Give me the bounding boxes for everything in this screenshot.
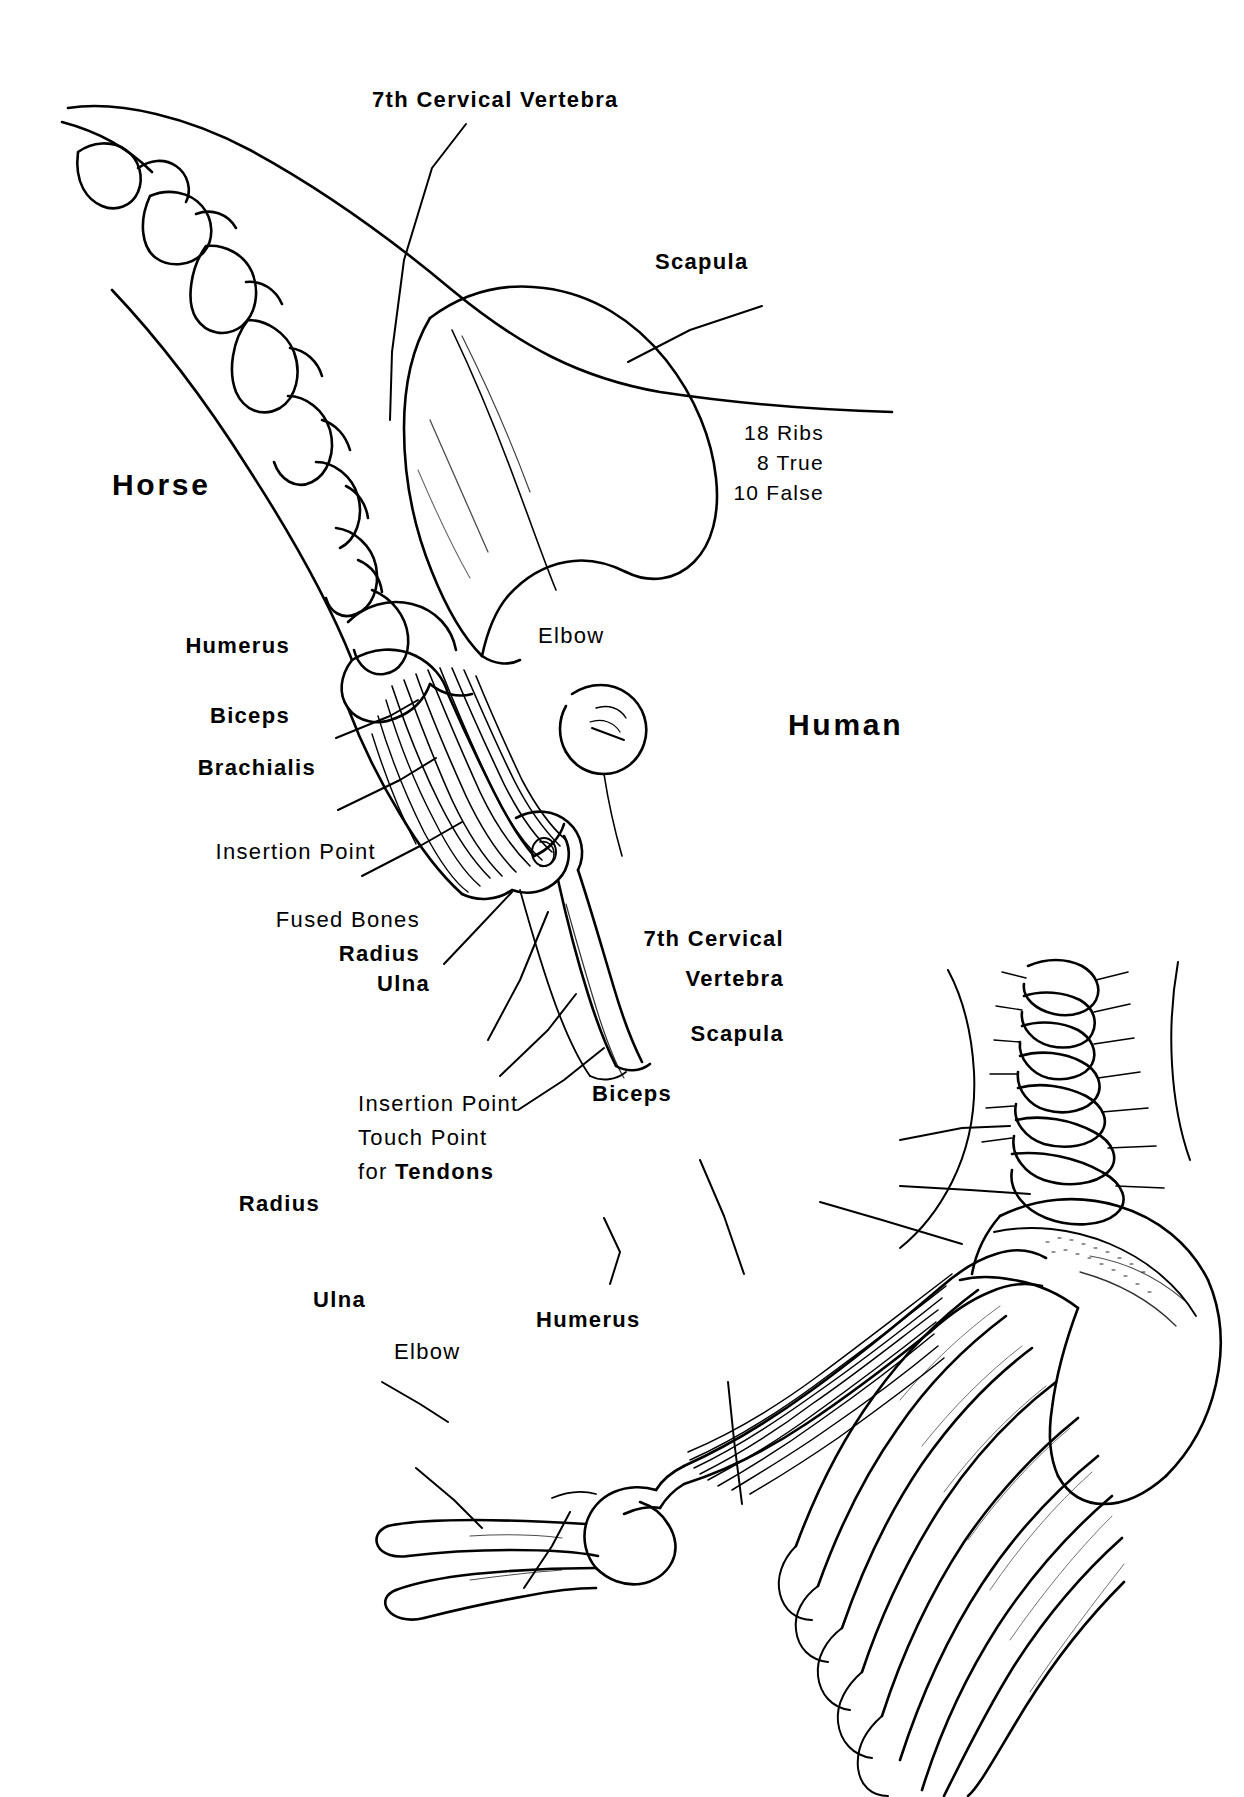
label-horse-ulna: Ulna	[240, 970, 430, 998]
label-human-elbow: Elbow	[394, 1338, 461, 1366]
label-human-touch-point: Touch Point	[358, 1124, 487, 1152]
human-humerus	[656, 1251, 1046, 1508]
leader-human-biceps	[700, 1160, 744, 1274]
human-scapula	[960, 1199, 1221, 1504]
label-horse-7th-cervical-vertebra: 7th Cervical Vertebra	[372, 86, 619, 114]
leader-horse-cervical	[390, 124, 466, 420]
human-cervical-vertebrae	[982, 960, 1164, 1224]
leader-horse-fused-bones	[488, 912, 548, 1040]
note-ribs-true: 8 True	[620, 450, 824, 477]
label-human-insertion-point: Insertion Point	[358, 1090, 518, 1118]
label-human-for-tendons: for Tendons	[358, 1158, 494, 1186]
human-elbow-joint	[552, 1487, 675, 1584]
leader-human-scapula2	[820, 1202, 962, 1244]
leader-human-ulna	[416, 1468, 482, 1528]
anatomy-diagram-page: 7th Cervical Vertebra Scapula Horse 18 R…	[0, 0, 1244, 1797]
leader-human-scapula	[900, 1186, 1030, 1194]
label-horse-elbow: Elbow	[538, 622, 605, 650]
leader-horse-insertion	[444, 892, 512, 964]
leader-human-radius	[382, 1382, 448, 1422]
leader-horse-brachialis	[362, 822, 462, 876]
label-horse-insertion-point: Insertion Point	[120, 838, 376, 866]
label-horse-radius: Radius	[220, 940, 420, 968]
label-human-humerus: Humerus	[536, 1306, 641, 1334]
note-ribs-total: 18 Ribs	[620, 420, 824, 447]
horse-neck-outline	[62, 106, 892, 660]
label-horse-fused-bones: Fused Bones	[180, 906, 420, 934]
label-human-for-tendons-bold: Tendons	[395, 1159, 494, 1184]
label-horse-biceps: Biceps	[60, 702, 290, 730]
leader-human-tendons	[604, 1218, 620, 1284]
leader-horse-biceps	[338, 758, 436, 810]
human-radius-ulna	[376, 1520, 598, 1620]
label-human-7th-cervical: 7th Cervical	[540, 925, 784, 953]
label-horse-title: Horse	[112, 466, 211, 504]
label-human-radius: Radius	[140, 1190, 320, 1218]
label-human-for-tendons-prefix: for	[358, 1159, 395, 1184]
label-horse-scapula: Scapula	[655, 248, 749, 276]
leader-horse-humerus	[336, 700, 418, 738]
horse-ulna-head	[560, 685, 646, 856]
label-human-title: Human	[788, 706, 903, 744]
label-human-scapula: Scapula	[560, 1020, 784, 1048]
leader-horse-scapula	[628, 306, 762, 362]
label-horse-humerus: Humerus	[60, 632, 290, 660]
label-horse-brachialis: Brachialis	[60, 754, 316, 782]
horse-cervical-vertebrae	[77, 143, 408, 674]
human-neck-contour	[900, 962, 1190, 1248]
leader-human-cervical	[900, 1126, 1010, 1140]
label-human-ulna: Ulna	[180, 1286, 366, 1314]
horse-elbow-joint	[512, 812, 582, 893]
skeleton-line-art	[0, 0, 1244, 1797]
label-human-biceps: Biceps	[592, 1080, 672, 1108]
note-ribs-false: 10 False	[620, 480, 824, 507]
label-human-vertebra: Vertebra	[540, 965, 784, 993]
